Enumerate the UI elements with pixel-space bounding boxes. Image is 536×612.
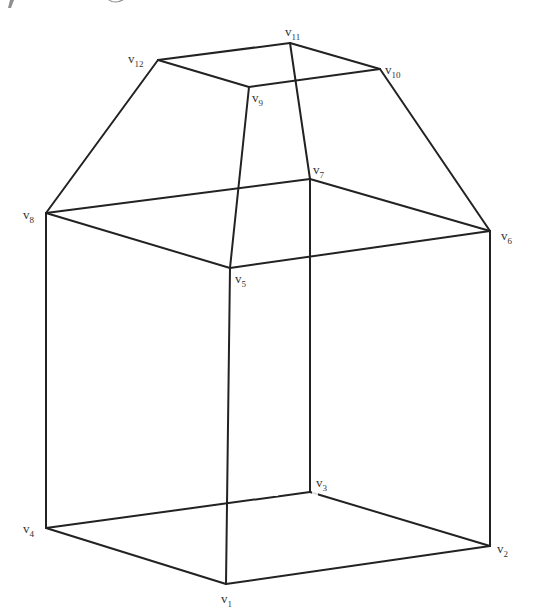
- vertex-label-v11: v11: [285, 24, 300, 42]
- vertex-label-v3: v3: [316, 475, 328, 493]
- edge-v11-v12: [158, 43, 290, 60]
- edge-v10-v11: [290, 43, 380, 69]
- smudge-mark: [312, 491, 318, 497]
- edge-v12-v8: [46, 60, 158, 213]
- edge-v1-v2: [226, 546, 490, 584]
- vertex-label-v9: v9: [252, 90, 264, 108]
- edge-v4-v1: [46, 528, 226, 584]
- edges-group: [46, 43, 490, 584]
- vertex-label-v7: v7: [313, 162, 325, 180]
- wireframe-diagram: v1v2v3v4v5v6v7v8v9v10v11v12: [0, 0, 536, 612]
- edge-v8-v5: [46, 213, 230, 268]
- vertex-label-v12: v12: [128, 51, 144, 69]
- edge-v5-v6: [230, 231, 490, 268]
- edge-v9-v5: [230, 87, 249, 268]
- edge-v9-v10: [249, 69, 380, 87]
- vertex-label-v6: v6: [501, 228, 513, 246]
- cutoff-caption-marks: [8, 0, 124, 8]
- edge-v10-v6: [380, 69, 490, 231]
- edge-v6-v7: [310, 179, 490, 231]
- vertex-label-v2: v2: [497, 541, 508, 559]
- edge-v12-v9: [158, 60, 249, 87]
- vertex-label-v4: v4: [23, 521, 35, 539]
- edge-v11-v7: [290, 43, 310, 179]
- vertex-label-v1: v1: [221, 591, 232, 609]
- vertex-label-v5: v5: [235, 271, 247, 289]
- edge-v1-v5: [226, 268, 230, 584]
- edge-v3-v4: [46, 492, 310, 528]
- smudge-mark: [258, 488, 278, 496]
- edge-v2-v3: [310, 492, 490, 546]
- edge-v7-v8: [46, 179, 310, 213]
- vertex-label-v8: v8: [23, 207, 35, 225]
- vertex-label-v10: v10: [385, 62, 401, 80]
